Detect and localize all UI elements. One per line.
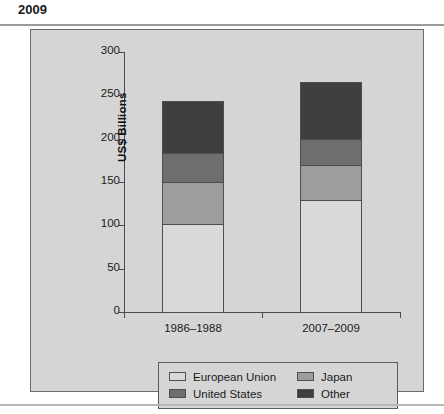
legend-label-united-states: United States xyxy=(193,388,262,400)
y-axis-title: US$ Billions xyxy=(116,93,128,163)
legend-swatch-japan xyxy=(297,372,314,381)
bar-segment xyxy=(162,224,224,313)
bar-segment xyxy=(300,200,362,313)
legend-row: European Union Japan xyxy=(169,368,389,385)
bar-segment xyxy=(300,82,362,139)
x-category-label: 2007–2009 xyxy=(302,322,360,334)
legend-label-european-union: European Union xyxy=(193,371,276,383)
chart-legend: European Union Japan United States Other xyxy=(158,362,398,409)
plot-area: US$ Billions 050100150200250300 1986–198… xyxy=(124,52,400,313)
legend-label-japan: Japan xyxy=(321,371,352,383)
y-tick-label: 300 xyxy=(101,44,120,56)
legend-swatch-united-states xyxy=(169,389,186,398)
bar-segment xyxy=(300,139,362,166)
bar-1 xyxy=(162,101,224,312)
legend-row: United States Other xyxy=(169,385,389,402)
legend-item-other: Other xyxy=(297,388,350,400)
chart-page: 2009 US$ Billions 050100150200250300 198… xyxy=(0,0,444,414)
legend-label-other: Other xyxy=(321,388,350,400)
y-tick-label: 200 xyxy=(101,131,120,143)
page-title: 2009 xyxy=(18,2,47,17)
legend-item-united-states: United States xyxy=(169,388,297,400)
y-tick-label: 100 xyxy=(101,217,120,229)
x-tick-mark xyxy=(400,313,401,318)
title-divider xyxy=(0,24,444,26)
bar-2 xyxy=(300,82,362,312)
y-tick-label: 0 xyxy=(114,304,120,316)
bar-segment xyxy=(162,153,224,183)
chart-panel: US$ Billions 050100150200250300 1986–198… xyxy=(30,29,424,392)
y-tick-label: 250 xyxy=(101,87,120,99)
y-tick-label: 50 xyxy=(107,261,120,273)
bar-segment xyxy=(162,182,224,225)
y-axis-line xyxy=(124,52,125,313)
legend-item-european-union: European Union xyxy=(169,371,297,383)
legend-item-japan: Japan xyxy=(297,371,352,383)
x-tick-mark xyxy=(124,313,125,318)
bar-segment xyxy=(162,101,224,154)
legend-swatch-european-union xyxy=(169,372,186,381)
bottom-divider xyxy=(0,404,444,406)
x-category-label: 1986–1988 xyxy=(164,322,222,334)
x-tick-mark xyxy=(262,313,263,318)
legend-swatch-other xyxy=(297,389,314,398)
y-tick-label: 150 xyxy=(101,174,120,186)
bar-segment xyxy=(300,165,362,202)
